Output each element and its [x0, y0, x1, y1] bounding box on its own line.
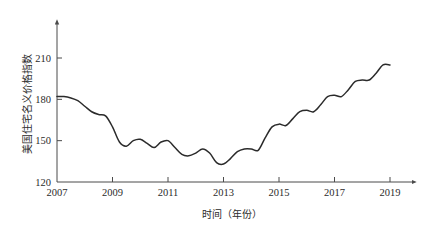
- x-tick-label: 2015: [269, 187, 290, 198]
- x-tick-label: 2013: [213, 187, 234, 198]
- data-series-line: [57, 64, 390, 164]
- y-axis-ticks: 120150180210: [35, 53, 62, 188]
- y-tick-label: 180: [35, 94, 51, 105]
- x-tick-label: 2019: [380, 187, 401, 198]
- x-tick-label: 2009: [102, 187, 123, 198]
- x-tick-label: 2007: [47, 187, 68, 198]
- x-axis-ticks: 2007200920112013201520172019: [47, 177, 401, 198]
- x-tick-label: 2011: [158, 187, 179, 198]
- line-chart: 120150180210 200720092011201320152017201…: [0, 0, 426, 239]
- y-axis-title: 美国住宅名义价格指数: [21, 54, 33, 154]
- y-tick-label: 150: [35, 135, 51, 146]
- y-tick-label: 120: [35, 177, 51, 188]
- x-tick-label: 2017: [324, 187, 345, 198]
- y-tick-label: 210: [35, 53, 51, 64]
- chart-container: 120150180210 200720092011201320152017201…: [0, 0, 426, 239]
- x-axis-title: 时间（年份）: [202, 208, 262, 220]
